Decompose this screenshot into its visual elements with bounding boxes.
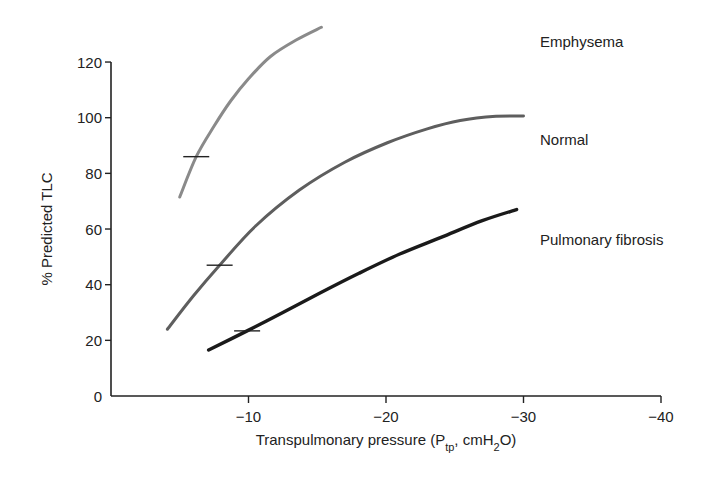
- emphysema-curve: [180, 27, 322, 197]
- y-axis-title: % Predicted TLC: [38, 172, 55, 285]
- y-tick-label: 100: [77, 109, 102, 126]
- x-tick-label: −20: [373, 408, 398, 425]
- y-tick-label: 40: [85, 276, 102, 293]
- labels-layer: % Predicted TLCTranspulmonary pressure (…: [38, 33, 663, 453]
- y-tick-label: 120: [77, 54, 102, 71]
- normal-curve: [167, 116, 523, 329]
- pulmonary-fibrosis-label: Pulmonary fibrosis: [540, 231, 663, 248]
- pulmonary-fibrosis-curve: [209, 210, 517, 351]
- y-tick-label: 80: [85, 165, 102, 182]
- series-layer: [167, 27, 523, 350]
- y-tick-label: 20: [85, 332, 102, 349]
- y-tick-label: 60: [85, 221, 102, 238]
- x-tick-label: −30: [511, 408, 536, 425]
- emphysema-label: Emphysema: [540, 33, 624, 50]
- normal-label: Normal: [540, 131, 588, 148]
- x-tick-label: −10: [236, 408, 261, 425]
- x-tick-label: −40: [648, 408, 673, 425]
- y-tick-label: 0: [94, 388, 102, 405]
- x-axis-title: Transpulmonary pressure (Ptp, cmH2O): [256, 431, 517, 453]
- pressure-volume-chart: 020406080100120−10−20−30−40 % Predicted …: [0, 0, 708, 481]
